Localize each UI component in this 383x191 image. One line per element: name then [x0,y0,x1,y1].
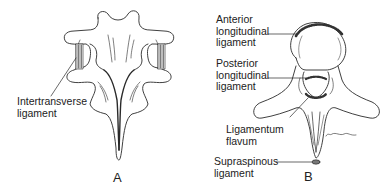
leader-intertransverse [51,58,76,96]
anterior-longitudinal-ligament [296,24,342,36]
panel-letter-a: A [113,170,122,185]
label-intertransverse-ligament: Intertransverse ligament [17,96,87,119]
ligamentum-flavum [306,94,326,98]
label-anterior-longitudinal-ligament: Anterior longitudinal ligament [216,14,269,49]
artist-signature [326,133,356,136]
label-ligamentum-flavum: Ligamentum flavum [226,124,284,147]
label-supraspinous-ligament: Supraspinous ligament [214,156,278,179]
posterior-longitudinal-ligament [306,77,326,79]
panel-a-vertebrae [64,11,173,160]
supraspinous-ligament [312,160,320,164]
panel-letter-b: B [304,169,313,184]
label-posterior-longitudinal-ligament: Posterior longitudinal ligament [216,58,269,93]
